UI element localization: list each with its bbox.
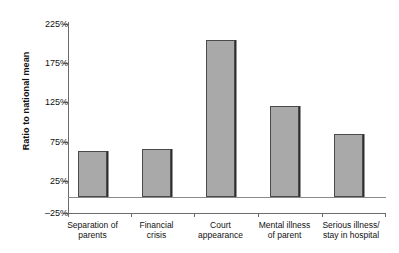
x-label-line2: of parent [252,230,317,240]
bar-series [0,0,399,253]
x-label-mental-illness-of-parent: Mental illness of parent [252,220,317,240]
x-label-line1: Serious illness/ [315,220,387,230]
bar-court-appearance[interactable] [206,40,235,197]
x-label-line2: parents [60,230,125,240]
x-label-separation-of-parents: Separation of parents [60,220,125,240]
x-label-line1: Financial [124,220,189,230]
bar-separation-of-parents[interactable] [78,151,107,197]
bar-mental-illness-of-parent[interactable] [270,106,299,197]
x-label-serious-illness-stay-in-hospital: Serious illness/ stay in hospital [315,220,387,240]
x-label-financial-crisis: Financial crisis [124,220,189,240]
bar-chart-figure: Ratio to national mean 225% 175% 125% 75… [0,0,399,253]
x-label-line1: Court [188,220,253,230]
x-label-line1: Separation of [60,220,125,230]
x-label-line1: Mental illness [252,220,317,230]
bar-serious-illness-stay-in-hospital[interactable] [334,134,363,197]
x-label-line2: crisis [124,230,189,240]
x-label-line2: appearance [188,230,253,240]
bar-financial-crisis[interactable] [142,149,171,197]
x-label-line2: stay in hospital [315,230,387,240]
x-label-court-appearance: Court appearance [188,220,253,240]
